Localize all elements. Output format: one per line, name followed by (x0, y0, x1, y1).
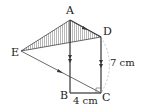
double-arrow-dc-icon-2 (99, 64, 103, 68)
label-a: A (65, 4, 75, 17)
label-d: D (103, 25, 112, 38)
label-e: E (11, 46, 19, 59)
measure-dc: 7 cm (110, 57, 135, 68)
label-b: B (60, 89, 68, 102)
double-arrow-ab-icon-2 (68, 59, 72, 63)
label-c: C (102, 91, 110, 104)
arrow-ec-icon (57, 69, 63, 73)
double-arrow-ab-icon (68, 55, 72, 59)
diagram-canvas: A D E B C 7 cm 4 cm (0, 0, 147, 111)
geometry-diagram: A D E B C 7 cm 4 cm (0, 0, 147, 111)
shaded-triangle-aed (21, 20, 101, 51)
measure-bc: 4 cm (73, 95, 98, 106)
double-arrow-dc-icon (99, 60, 103, 64)
